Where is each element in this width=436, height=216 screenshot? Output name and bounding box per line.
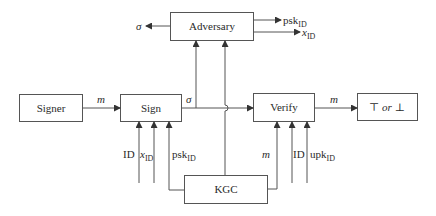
adversary-sigma-label: σ <box>136 20 142 32</box>
result-box: ⊤ or ⊥ <box>358 94 418 121</box>
sign-psk-label: pskID <box>172 148 196 163</box>
diagram-canvas: Adversary Signer Sign Verify ⊤ or ⊥ KGC … <box>0 0 436 216</box>
verify-to-result-m-label: m <box>330 93 338 105</box>
verify-id-label: ID <box>293 148 305 160</box>
verify-upk-label: upkID <box>310 148 335 163</box>
kgc-box: KGC <box>185 176 268 204</box>
kgc-label: KGC <box>214 183 237 195</box>
adversary-label: Adversary <box>189 20 235 32</box>
signer-box: Signer <box>20 95 83 122</box>
sign-sigma-label: σ <box>186 93 192 105</box>
signer-label: Signer <box>37 102 66 114</box>
verify-label: Verify <box>270 101 298 113</box>
sign-x-label: xID <box>139 148 154 163</box>
signer-to-sign-m-label: m <box>97 93 105 105</box>
adversary-x-label: xID <box>301 26 316 41</box>
adversary-box: Adversary <box>171 13 254 41</box>
verify-box: Verify <box>254 94 315 122</box>
verify-m-label: m <box>262 148 270 160</box>
sign-box: Sign <box>121 95 182 122</box>
sign-id-label: ID <box>123 148 135 160</box>
result-label: ⊤ or ⊥ <box>369 101 405 113</box>
sign-label: Sign <box>141 102 162 114</box>
